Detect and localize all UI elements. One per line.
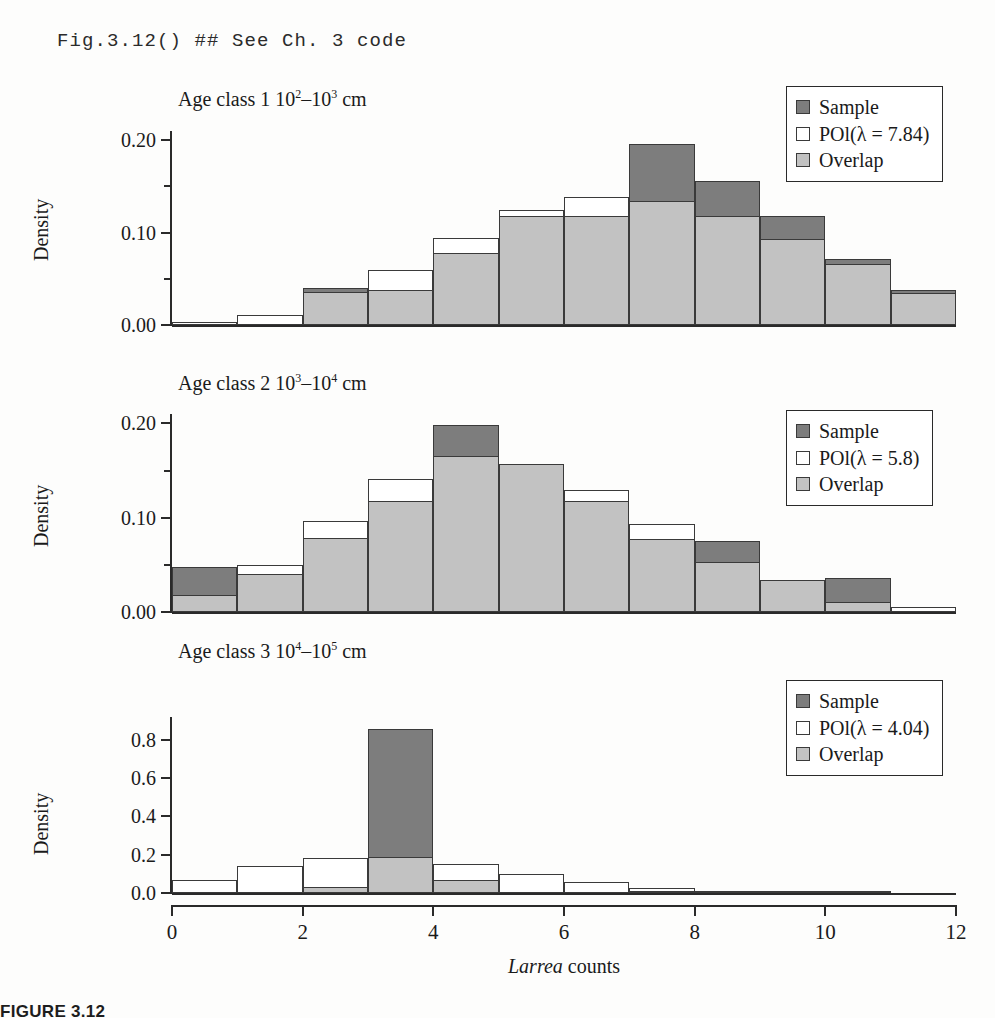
y-axis-minor-tick bbox=[164, 470, 172, 472]
panel-title: Age class 1 102–103 cm bbox=[178, 88, 367, 111]
y-axis-tick bbox=[161, 232, 172, 234]
histogram-bar bbox=[433, 717, 498, 893]
bar-segment-overlap bbox=[303, 292, 368, 325]
chart-legend: SamplePOl(λ = 4.04)Overlap bbox=[786, 680, 943, 776]
histogram-bar bbox=[433, 414, 498, 612]
legend-swatch-sample bbox=[796, 424, 810, 438]
histogram-bar bbox=[564, 131, 629, 325]
legend-item: Overlap bbox=[796, 471, 919, 498]
histogram-bar bbox=[303, 717, 368, 893]
y-axis: 0.000.100.20 bbox=[150, 414, 172, 612]
y-axis-tick-label: 0.8 bbox=[131, 728, 156, 751]
y-axis-tick-label: 0.00 bbox=[121, 601, 156, 624]
y-axis-tick bbox=[161, 139, 172, 141]
legend-swatch-overlap bbox=[796, 153, 810, 167]
histogram-bar bbox=[368, 131, 433, 325]
bar-segment-overlap bbox=[368, 501, 433, 612]
chart-panel-age-class-2: Age class 2 103–104 cmDensity0.000.100.2… bbox=[0, 372, 995, 640]
bar-segment-overlap bbox=[825, 264, 890, 325]
y-axis-tick bbox=[161, 777, 172, 779]
histogram-bar bbox=[695, 131, 760, 325]
bar-segment-poisson bbox=[172, 880, 237, 893]
histogram-bar bbox=[433, 131, 498, 325]
y-axis-minor-tick bbox=[164, 278, 172, 280]
chart-legend: SamplePOl(λ = 5.8)Overlap bbox=[786, 410, 933, 506]
histogram-bar bbox=[172, 414, 237, 612]
y-axis-minor-tick bbox=[164, 564, 172, 566]
y-axis-tick bbox=[161, 854, 172, 856]
x-axis-tick bbox=[824, 905, 826, 916]
histogram-bar bbox=[499, 717, 564, 893]
x-axis-tick bbox=[171, 905, 173, 916]
histogram-bar bbox=[564, 717, 629, 893]
panel-title: Age class 2 103–104 cm bbox=[178, 372, 367, 395]
bar-segment-overlap bbox=[564, 501, 629, 612]
y-axis-tick-label: 0.10 bbox=[121, 506, 156, 529]
bar-segment-poisson bbox=[891, 607, 956, 612]
bar-segment-poisson bbox=[499, 874, 564, 893]
legend-item-label: Sample bbox=[819, 418, 879, 445]
histogram-bar bbox=[172, 131, 237, 325]
bar-segment-overlap bbox=[433, 456, 498, 612]
histogram-bar bbox=[368, 414, 433, 612]
y-axis-tick bbox=[161, 739, 172, 741]
panel-title: Age class 3 104–105 cm bbox=[178, 640, 367, 663]
histogram-bar bbox=[695, 414, 760, 612]
bar-segment-overlap bbox=[695, 216, 760, 325]
bar-segment-overlap bbox=[825, 602, 890, 612]
legend-item-label: POl(λ = 7.84) bbox=[819, 121, 929, 148]
legend-swatch-sample bbox=[796, 694, 810, 708]
plot-baseline bbox=[172, 325, 956, 327]
legend-item-label: Sample bbox=[819, 688, 879, 715]
y-axis-minor-tick bbox=[164, 185, 172, 187]
legend-item: POl(λ = 4.04) bbox=[796, 715, 929, 742]
legend-item-label: POl(λ = 4.04) bbox=[819, 715, 929, 742]
bar-segment-overlap bbox=[760, 580, 825, 612]
bar-segment-poisson bbox=[760, 891, 825, 893]
histogram-bar bbox=[368, 717, 433, 893]
histogram-bar bbox=[695, 717, 760, 893]
histogram-bar bbox=[499, 131, 564, 325]
plot-baseline bbox=[172, 893, 956, 895]
legend-swatch-sample bbox=[796, 100, 810, 114]
bar-segment-overlap bbox=[433, 880, 498, 893]
bar-segment-overlap bbox=[172, 595, 237, 612]
y-axis: 0.000.100.20 bbox=[150, 131, 172, 325]
bar-segment-overlap bbox=[303, 538, 368, 612]
bar-segment-overlap bbox=[499, 216, 564, 325]
y-axis: 0.00.20.40.60.8 bbox=[150, 717, 172, 893]
bar-segment-overlap bbox=[629, 201, 694, 325]
x-axis-title: Larrea counts bbox=[508, 955, 620, 978]
histogram-bar bbox=[629, 414, 694, 612]
y-axis-tick bbox=[161, 422, 172, 424]
bar-segment-poisson bbox=[564, 882, 629, 893]
code-comment-line: Fig.3.12() ## See Ch. 3 code bbox=[57, 30, 407, 52]
histogram-bar bbox=[303, 131, 368, 325]
y-axis-tick bbox=[161, 892, 172, 894]
legend-item-label: Overlap bbox=[819, 147, 883, 174]
y-axis-tick-label: 0.10 bbox=[121, 221, 156, 244]
bar-segment-overlap bbox=[695, 562, 760, 612]
legend-item: Sample bbox=[796, 418, 919, 445]
bar-segment-overlap bbox=[499, 464, 564, 612]
x-axis-tick-label: 4 bbox=[428, 920, 439, 945]
bar-segment-poisson bbox=[825, 891, 890, 893]
bar-segment-overlap bbox=[368, 857, 433, 893]
x-axis-tick bbox=[694, 905, 696, 916]
legend-swatch-overlap bbox=[796, 477, 810, 491]
x-axis-tick bbox=[302, 905, 304, 916]
legend-item-label: POl(λ = 5.8) bbox=[819, 445, 919, 472]
legend-item: Sample bbox=[796, 688, 929, 715]
legend-swatch-poisson bbox=[796, 451, 810, 465]
legend-item-label: Overlap bbox=[819, 741, 883, 768]
x-axis-tick bbox=[563, 905, 565, 916]
bar-segment-overlap bbox=[695, 891, 760, 893]
x-axis-tick-label: 6 bbox=[559, 920, 570, 945]
y-axis-label: Density bbox=[30, 485, 53, 547]
histogram-bar bbox=[629, 131, 694, 325]
chart-panel-age-class-1: Age class 1 102–103 cmDensity0.000.100.2… bbox=[0, 86, 995, 376]
bar-segment-overlap bbox=[237, 574, 302, 612]
x-axis-tick-label: 12 bbox=[946, 920, 967, 945]
legend-swatch-overlap bbox=[796, 747, 810, 761]
y-axis-tick-label: 0.2 bbox=[131, 843, 156, 866]
